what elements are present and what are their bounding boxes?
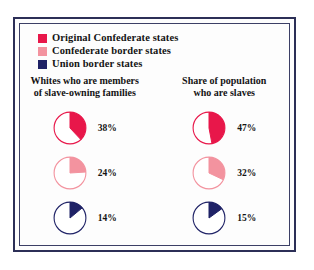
- chart-column-right: Share of population who are slaves 47% 3…: [155, 75, 295, 240]
- pie-row: 15%: [192, 195, 256, 240]
- pie-value-label: 24%: [98, 168, 117, 178]
- legend-swatch-original-confederate-icon: [38, 34, 47, 43]
- pie-value-label: 14%: [98, 213, 117, 223]
- chart-columns: Whites who are members of slave-owning f…: [15, 75, 294, 240]
- pie-chart-union-border: [192, 201, 226, 235]
- pie-row: 24%: [53, 150, 117, 195]
- pie-chart-original-confederate: [53, 111, 87, 145]
- column-title: Whites who are members of slave-owning f…: [31, 75, 139, 98]
- chart-column-left: Whites who are members of slave-owning f…: [15, 75, 155, 240]
- pie-list: 38% 24% 14%: [53, 105, 117, 240]
- legend-item-label: Confederate border states: [52, 45, 171, 57]
- pie-row: 14%: [53, 195, 117, 240]
- pie-row: 38%: [53, 105, 117, 150]
- pie-chart-confederate-border: [53, 156, 87, 190]
- legend-item: Original Confederate states: [38, 32, 178, 44]
- infographic-content: Original Confederate states Confederate …: [15, 19, 294, 250]
- legend-item-label: Union border states: [52, 58, 142, 70]
- pie-value-label: 38%: [98, 123, 117, 133]
- pie-value-label: 15%: [237, 213, 256, 223]
- pie-value-label: 32%: [237, 168, 256, 178]
- legend-swatch-confederate-border-icon: [38, 47, 47, 56]
- pie-chart-original-confederate: [192, 111, 226, 145]
- pie-value-label: 47%: [237, 123, 256, 133]
- legend: Original Confederate states Confederate …: [38, 32, 178, 71]
- column-title: Share of population who are slaves: [182, 75, 266, 98]
- legend-item-label: Original Confederate states: [52, 32, 178, 44]
- legend-swatch-union-border-icon: [38, 60, 47, 69]
- pie-list: 47% 32% 15%: [192, 105, 256, 240]
- pie-chart-union-border: [53, 201, 87, 235]
- pie-row: 32%: [192, 150, 256, 195]
- legend-item: Union border states: [38, 58, 178, 70]
- pie-chart-confederate-border: [192, 156, 226, 190]
- infographic-panel: Original Confederate states Confederate …: [13, 17, 296, 252]
- legend-item: Confederate border states: [38, 45, 178, 57]
- pie-row: 47%: [192, 105, 256, 150]
